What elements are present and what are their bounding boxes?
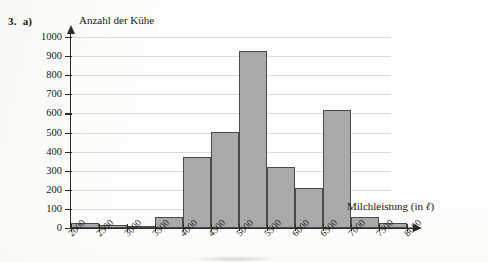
page-background: 3.a) 10009008007006005004003002001000 20…: [0, 0, 488, 262]
grid-line: [71, 94, 391, 95]
y-axis-tick: [65, 171, 72, 172]
grid-line: [71, 56, 391, 57]
y-axis-tick-label: 0: [30, 223, 62, 234]
y-axis-title: Anzahl der Kühe: [79, 14, 154, 26]
y-axis-tick: [65, 133, 72, 134]
histogram-chart: 10009008007006005004003002001000 2000250…: [0, 0, 488, 262]
x-axis-title-suffix: ): [430, 200, 434, 212]
scan-smudge: [190, 256, 280, 262]
grid-line: [71, 75, 391, 76]
y-axis-tick: [65, 152, 72, 153]
y-axis-tick-label: 1000: [30, 32, 62, 43]
y-axis-tick: [65, 209, 72, 210]
y-axis-tick-label: 800: [30, 70, 62, 81]
y-axis-tick: [65, 94, 72, 95]
y-axis-tick: [65, 190, 72, 191]
y-axis-tick: [65, 113, 72, 114]
y-axis-tick-label: 900: [30, 51, 62, 62]
y-axis-tick-label: 400: [30, 147, 62, 158]
y-axis-tick: [65, 56, 72, 57]
y-axis-tick: [65, 37, 72, 38]
y-axis-tick-label: 500: [30, 128, 62, 139]
histogram-bar: [267, 167, 295, 228]
y-axis-tick-label: 200: [30, 185, 62, 196]
histogram-bar: [239, 51, 267, 228]
y-axis-tick: [65, 75, 72, 76]
histogram-bar: [211, 132, 239, 228]
y-axis-tick-label: 600: [30, 108, 62, 119]
y-axis-tick-label: 100: [30, 204, 62, 215]
y-axis-line: [70, 33, 71, 229]
y-axis-tick-label: 300: [30, 166, 62, 177]
x-axis-title-prefix: Milchleistung (in: [347, 200, 426, 212]
histogram-bar: [183, 157, 211, 228]
y-axis-tick-label: 700: [30, 89, 62, 100]
x-axis-title: Milchleistung (in ℓ): [347, 200, 434, 212]
grid-line: [71, 37, 391, 38]
